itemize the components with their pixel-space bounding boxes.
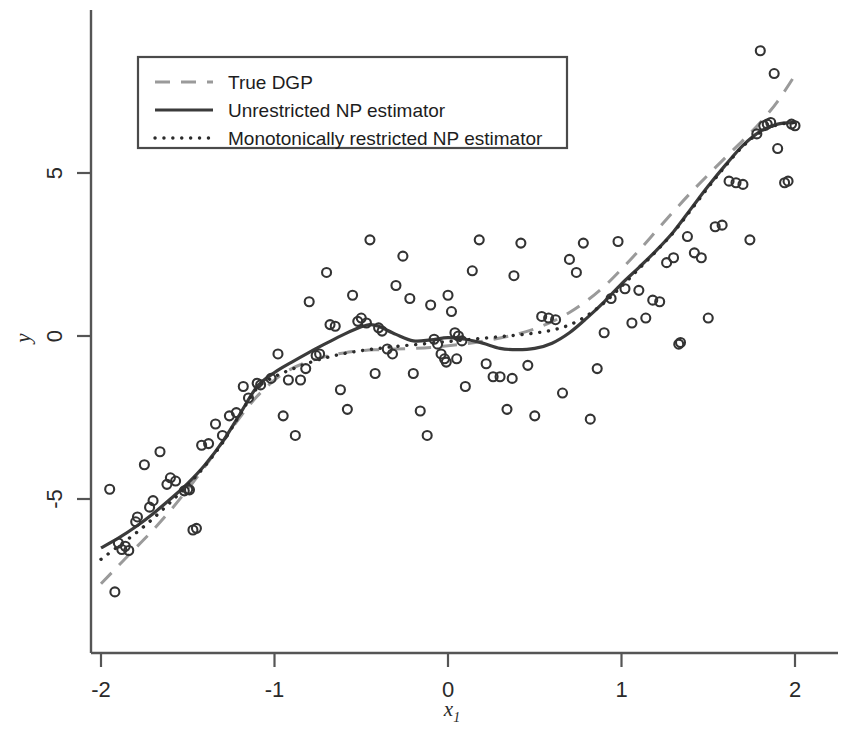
scatter-plot: -2-1012 -505 x1 y True DGPUnrestricted N… [0, 0, 844, 738]
legend-label-2: Monotonically restricted NP estimator [228, 128, 543, 149]
x-tick-label: -2 [91, 677, 111, 702]
x-tick-label: -1 [265, 677, 285, 702]
legend-label-0: True DGP [228, 72, 313, 93]
x-tick-label: 1 [615, 677, 627, 702]
x-tick-label: 2 [789, 677, 801, 702]
y-tick-label: 0 [42, 330, 67, 342]
y-tick-label: 5 [42, 167, 67, 179]
legend[interactable]: True DGPUnrestricted NP estimatorMonoton… [138, 57, 567, 149]
y-tick-label: -5 [42, 489, 67, 509]
legend-label-1: Unrestricted NP estimator [228, 100, 446, 121]
figure-root: -2-1012 -505 x1 y True DGPUnrestricted N… [0, 0, 844, 738]
y-axis-title: y [11, 333, 35, 345]
